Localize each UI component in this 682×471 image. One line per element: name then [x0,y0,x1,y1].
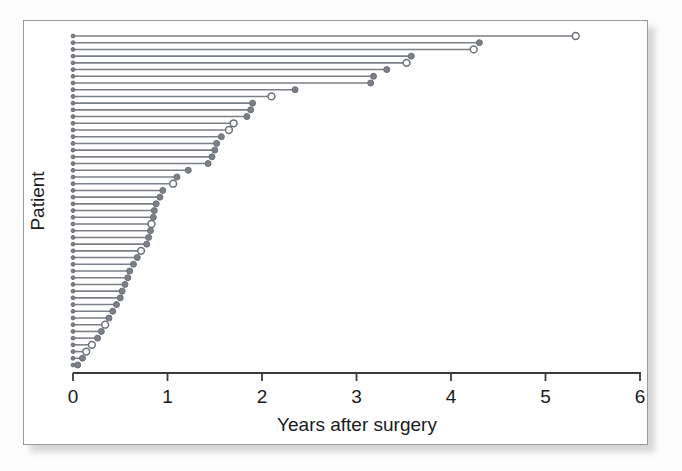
event-marker [146,234,152,240]
event-marker [384,67,390,73]
patient-entry-marker [71,236,75,240]
patient-entry-marker [71,108,75,112]
event-marker [151,208,157,214]
patient-entry-marker [71,162,75,166]
censored-marker [138,247,145,254]
x-axis-tick-label: 2 [257,386,268,407]
event-marker [127,268,133,274]
event-marker [113,302,119,308]
patient-entry-marker [71,296,75,300]
patient-entry-marker [71,41,75,45]
event-marker [130,261,136,267]
patient-entry-marker [71,309,75,313]
censored-marker [89,341,96,348]
patient-entry-marker [71,209,75,213]
patient-entry-marker [71,135,75,139]
x-axis-tick-label: 6 [635,386,646,407]
patient-entry-marker [71,189,75,193]
x-axis-tick-label: 1 [162,386,173,407]
censored-marker [230,120,237,127]
event-marker [248,107,254,113]
event-marker [134,255,140,261]
patient-entry-marker [71,128,75,132]
event-marker [95,335,101,341]
patient-entry-marker [71,336,75,340]
patient-entry-marker [71,303,75,307]
x-axis-tick-label: 4 [446,386,457,407]
patient-entry-marker [71,343,75,347]
patient-entry-marker [71,283,75,287]
patient-entry-marker [71,249,75,253]
lollipop-chart-svg: 0123456 Years after surgery Patient [24,21,647,444]
patient-entry-marker [71,95,75,99]
patient-entry-marker [71,168,75,172]
event-marker [122,281,128,287]
event-marker [79,355,85,361]
y-axis-title: Patient [27,171,48,231]
event-marker [160,187,166,193]
event-marker [368,80,374,86]
patient-entry-marker [71,222,75,226]
event-marker [144,241,150,247]
event-marker [205,161,211,167]
event-marker [110,308,116,314]
patient-entry-marker [71,202,75,206]
patient-entry-marker [71,148,75,152]
event-marker [185,167,191,173]
event-marker [214,140,220,146]
event-marker [119,288,125,294]
patient-entry-marker [71,256,75,260]
event-marker [408,53,414,59]
patient-entry-marker [71,54,75,58]
patient-segments-layer [73,36,576,365]
event-marker [157,194,163,200]
patient-entry-marker [71,175,75,179]
event-marker [125,275,131,281]
patient-entry-marker [71,323,75,327]
patient-entry-marker [71,242,75,246]
event-marker [218,134,224,140]
patient-entry-marker [71,195,75,199]
event-marker [98,328,104,334]
censored-marker [470,46,477,53]
censored-marker [83,348,90,355]
patient-entry-marker [71,215,75,219]
patient-entry-marker [71,316,75,320]
patient-entry-marker [71,88,75,92]
x-axis-title: Years after surgery [277,414,437,435]
event-marker [106,315,112,321]
patient-entry-marker [71,330,75,334]
censored-marker [102,321,109,328]
patient-entry-marker [71,74,75,78]
event-marker [250,100,256,106]
x-axis: 0123456 [68,373,646,407]
censored-marker [226,127,233,134]
patient-entry-marker [71,61,75,65]
patient-entry-marker [71,101,75,105]
event-marker [75,362,81,368]
patient-entry-marker [71,269,75,273]
patient-entry-marker [71,350,75,354]
event-marker [153,201,159,207]
patient-entry-marker [71,289,75,293]
patient-entry-marker [71,68,75,72]
event-marker [292,87,298,93]
x-axis-tick-labels: 0123456 [68,386,646,407]
censored-marker [403,59,410,66]
event-marker [209,154,215,160]
x-axis-tick-label: 5 [540,386,551,407]
patient-entry-marker [71,356,75,360]
event-marker [117,295,123,301]
patient-entry-marker [71,182,75,186]
patient-entry-marker [71,229,75,233]
x-axis-tick-label: 3 [351,386,362,407]
event-marker [476,40,482,46]
patient-entry-marker [71,34,75,38]
event-marker [174,174,180,180]
event-marker [150,214,156,220]
censored-marker [572,33,579,40]
patient-entry-marker [71,262,75,266]
patient-entry-marker [71,155,75,159]
patient-entry-marker [71,121,75,125]
chart-panel: 0123456 Years after surgery Patient [23,20,648,445]
